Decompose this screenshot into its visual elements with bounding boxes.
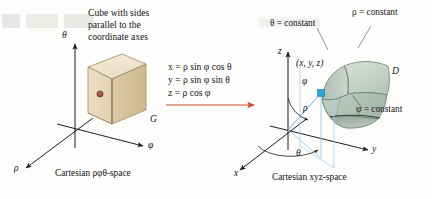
z-axis-label: z xyxy=(278,46,282,57)
equation-z: z = ρ cos φ xyxy=(168,88,210,99)
solid-g-label: G xyxy=(150,114,157,125)
equation-y: y = ρ sin φ sin θ xyxy=(168,75,230,86)
rho-axis-line xyxy=(26,118,93,168)
leader-rho-constant xyxy=(358,26,371,48)
x-axis-label: x xyxy=(234,168,238,179)
x-axis-line xyxy=(240,120,305,170)
left-panel-caption: Cartesian ρφθ-space xyxy=(55,168,131,178)
spherical-coordinates-figure: Cube with sides parallel to the coordina… xyxy=(0,0,432,199)
rho-length-label: ρ xyxy=(303,103,308,114)
rho-axis-label: ρ xyxy=(14,163,19,174)
y-axis-label: y xyxy=(372,144,376,155)
equation-x: x = ρ sin φ cos θ xyxy=(168,62,232,73)
phi-angle-label: φ xyxy=(302,76,307,87)
y-axis-line xyxy=(270,126,368,150)
theta-axis-label: θ xyxy=(62,30,67,41)
cube-heading-line-3: coordinate axes xyxy=(88,32,148,43)
leader-theta-constant xyxy=(317,28,328,50)
rho-constant-label: ρ = constant xyxy=(352,7,398,17)
cube-heading-line-1: Cube with sides xyxy=(88,8,149,19)
point-xyz-label: (x, y, z) xyxy=(296,58,323,69)
right-panel-caption: Cartesian xyz-space xyxy=(272,172,347,182)
solid-phi-constant-face xyxy=(330,116,378,128)
point-xyz-marker xyxy=(318,90,325,97)
solid-theta-constant-face xyxy=(322,66,348,100)
cube-heading-line-2: parallel to the xyxy=(88,20,141,31)
cube-solid-g xyxy=(88,54,146,124)
theta-plane-edge-bottom xyxy=(300,146,334,168)
solid-d-label: D xyxy=(392,66,399,77)
solid-rho-constant-face xyxy=(344,62,389,96)
solid-region-d xyxy=(322,62,389,129)
theta-constant-label: θ = constant xyxy=(270,18,315,28)
cube-center-point xyxy=(97,91,103,97)
phi-constant-label: φ = constant xyxy=(356,104,402,114)
phi-axis-label: φ xyxy=(148,140,153,151)
theta-angle-label: θ xyxy=(296,148,301,159)
